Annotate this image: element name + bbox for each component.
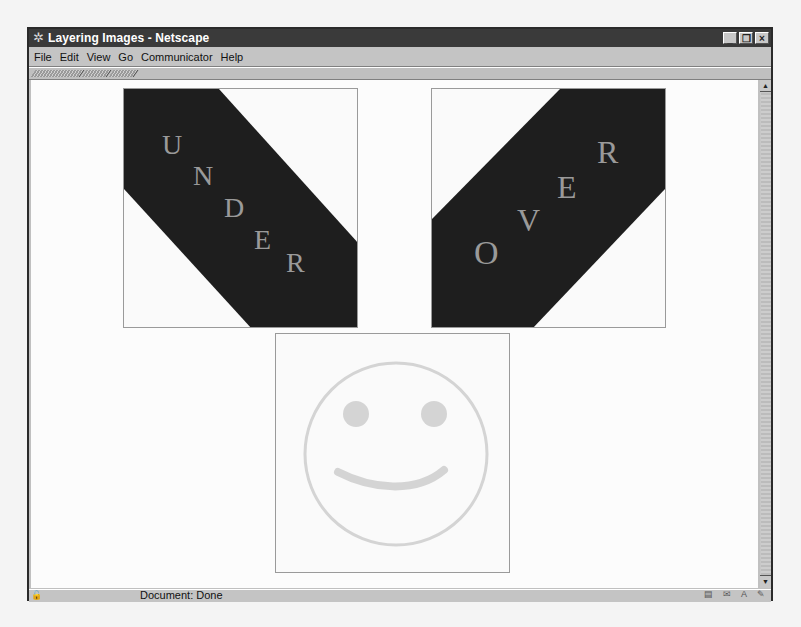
menu-edit[interactable]: Edit [60, 51, 79, 63]
collapsed-toolbars [29, 67, 771, 80]
vertical-scrollbar[interactable]: ▲ ▼ [760, 80, 771, 588]
title-bar[interactable]: ✲ Layering Images - Netscape _ ❐ × [29, 29, 771, 47]
over-letter-e: E [557, 169, 577, 206]
under-image: U N D E R [123, 88, 358, 328]
security-lock-icon[interactable]: 🔓 [31, 590, 45, 601]
under-letter-u: U [162, 129, 182, 161]
over-letter-o: O [474, 234, 499, 272]
status-text: Document: Done [140, 589, 223, 601]
location-toolbar-tab[interactable] [82, 70, 112, 77]
scroll-down-button[interactable]: ▼ [760, 575, 771, 587]
close-button[interactable]: × [755, 32, 769, 44]
navigation-toolbar-tab[interactable] [31, 70, 85, 77]
smiley-image [275, 333, 510, 573]
restore-button[interactable]: ❐ [739, 32, 753, 44]
menu-view[interactable]: View [87, 51, 111, 63]
menu-file[interactable]: File [34, 51, 52, 63]
composer-icon[interactable]: A [741, 589, 747, 599]
over-letter-r: R [597, 134, 618, 171]
menu-bar: File Edit View Go Communicator Help [29, 47, 771, 67]
window-controls: _ ❐ × [723, 32, 769, 44]
component-bar: ▤ ✉ A ✎ [704, 589, 765, 599]
status-bar: 🔓 Document: Done ▤ ✉ A ✎ [29, 589, 771, 602]
edit-pen-icon[interactable]: ✎ [757, 589, 765, 599]
diagonal-band-graphic [432, 89, 666, 328]
under-letter-e: E [254, 224, 271, 256]
mail-icon[interactable]: ✉ [723, 589, 731, 599]
page-content: U N D E R O V E R [31, 80, 758, 588]
window-title: Layering Images - Netscape [48, 31, 209, 45]
smiley-face-icon [276, 334, 510, 573]
minimize-button[interactable]: _ [723, 32, 737, 44]
scroll-up-button[interactable]: ▲ [760, 80, 771, 92]
browser-window: ✲ Layering Images - Netscape _ ❐ × File … [27, 27, 773, 601]
scroll-track[interactable] [761, 93, 771, 575]
over-image: O V E R [431, 88, 666, 328]
menu-help[interactable]: Help [221, 51, 244, 63]
over-letter-v: V [517, 202, 540, 239]
under-letter-n: N [193, 160, 213, 192]
personal-toolbar-tab[interactable] [109, 70, 139, 77]
netscape-logo-icon: ✲ [31, 31, 45, 45]
menu-go[interactable]: Go [118, 51, 133, 63]
under-letter-d: D [224, 192, 244, 224]
menu-communicator[interactable]: Communicator [141, 51, 213, 63]
under-letter-r: R [286, 247, 305, 279]
navigator-icon[interactable]: ▤ [704, 589, 713, 599]
